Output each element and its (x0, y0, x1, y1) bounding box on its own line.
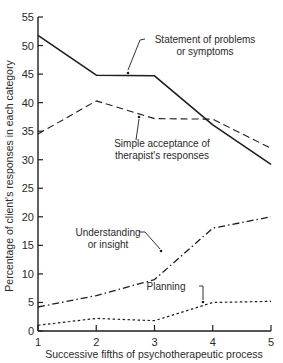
arrowhead-icon (202, 301, 205, 304)
arrowhead-icon (138, 116, 141, 119)
y-tick-label: 10 (22, 268, 34, 280)
y-tick-label: 55 (22, 11, 34, 23)
y-axis: 0510152025303540455055 (22, 11, 43, 337)
y-tick-label: 5 (28, 296, 34, 308)
x-tick-label: 1 (35, 336, 41, 348)
y-tick-label: 50 (22, 40, 34, 52)
x-axis: 12345 (35, 325, 274, 348)
y-tick-label: 15 (22, 239, 34, 251)
leader-arrow (128, 39, 145, 70)
arrowhead-icon (160, 250, 163, 253)
series-line-2 (38, 217, 271, 307)
y-tick-label: 30 (22, 154, 34, 166)
line-chart: 0510152025303540455055 12345 Statement o… (0, 0, 283, 363)
x-tick-label: 2 (93, 336, 99, 348)
y-tick-label: 20 (22, 211, 34, 223)
series-annotations: Statement of problemsor symptomsSimple a… (75, 34, 255, 303)
series-line-3 (38, 301, 271, 325)
x-tick-label: 4 (210, 336, 216, 348)
y-tick-label: 35 (22, 125, 34, 137)
series-annotation-label: Understanding (75, 227, 140, 238)
y-axis-title: Percentage of client's responses in each… (3, 60, 15, 292)
series-annotation-label: Statement of problems (155, 34, 256, 45)
leader-arrow (139, 232, 160, 249)
y-tick-label: 0 (28, 325, 34, 337)
leader-arrow (136, 119, 139, 140)
series-annotation-label: Planning (147, 281, 186, 292)
x-tick-label: 3 (151, 336, 157, 348)
y-tick-label: 45 (22, 68, 34, 80)
series-annotation-label: therapist's responses (115, 150, 209, 161)
x-tick-label: 5 (268, 336, 274, 348)
series-annotation-label: Simple acceptance of (114, 138, 210, 149)
y-tick-label: 40 (22, 97, 34, 109)
leader-arrow (199, 286, 203, 300)
series-annotation-label: or symptoms (176, 46, 233, 57)
arrowhead-icon (127, 72, 130, 75)
y-tick-label: 25 (22, 182, 34, 194)
series-annotation-label: or insight (88, 239, 129, 250)
x-axis-title: Successive fifths of psychotherapeutic p… (45, 348, 263, 360)
